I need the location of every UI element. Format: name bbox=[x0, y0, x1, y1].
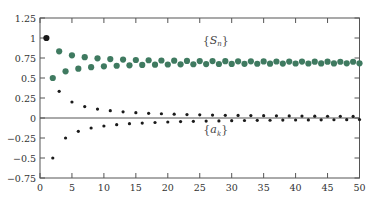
partial-sum-point bbox=[248, 58, 254, 64]
partial-sum-point bbox=[139, 62, 145, 68]
y-tick-label: −0.5 bbox=[13, 153, 36, 164]
partial-sum-point bbox=[171, 58, 177, 64]
plot-frame bbox=[40, 18, 360, 178]
term-point bbox=[288, 114, 291, 117]
x-tick-label: 0 bbox=[37, 182, 43, 193]
term-point bbox=[134, 111, 137, 114]
term-point bbox=[58, 90, 61, 93]
term-point bbox=[160, 112, 163, 115]
partial-sum-point bbox=[69, 52, 75, 58]
partial-sum-point bbox=[312, 59, 318, 65]
partial-sum-point bbox=[318, 60, 324, 66]
term-point bbox=[185, 113, 188, 116]
partial-sum-point bbox=[62, 68, 68, 74]
partial-sum-point bbox=[88, 64, 94, 70]
partial-sum-point bbox=[356, 60, 362, 66]
term-point bbox=[205, 119, 208, 122]
term-point bbox=[77, 130, 80, 133]
x-tick-label: 45 bbox=[322, 182, 334, 193]
term-point bbox=[224, 114, 227, 117]
x-tick-label: 25 bbox=[194, 182, 206, 193]
term-point bbox=[121, 110, 124, 113]
y-tick-label: 1.25 bbox=[15, 13, 36, 24]
term-point bbox=[230, 119, 233, 122]
term-point bbox=[90, 126, 93, 129]
term-point bbox=[109, 109, 112, 112]
partial-sum-point bbox=[190, 61, 196, 67]
y-tick-label: 1 bbox=[30, 33, 36, 44]
x-tick-label: 50 bbox=[353, 182, 365, 193]
partial-sum-point bbox=[324, 59, 330, 65]
y-tick-label: 0.5 bbox=[21, 73, 36, 84]
partial-sum-point bbox=[120, 57, 126, 63]
term-point bbox=[320, 118, 323, 121]
partial-sum-point bbox=[158, 57, 164, 63]
partial-sum-point bbox=[235, 58, 241, 64]
partial-sum-point bbox=[165, 61, 171, 67]
term-point bbox=[192, 120, 195, 123]
term-point bbox=[345, 118, 348, 121]
partial-sum-point bbox=[152, 62, 158, 68]
partial-sum-point bbox=[75, 66, 81, 72]
partial-sum-point bbox=[229, 61, 235, 67]
partial-sum-point bbox=[146, 57, 152, 63]
partial-sum-point bbox=[344, 60, 350, 66]
term-point bbox=[115, 123, 118, 126]
term-point bbox=[179, 120, 182, 123]
partial-sum-point bbox=[267, 61, 273, 67]
term-point bbox=[141, 121, 144, 124]
term-point bbox=[83, 105, 86, 108]
partial-sum-point bbox=[331, 60, 337, 66]
x-tick-label: 20 bbox=[162, 182, 174, 193]
term-point bbox=[339, 115, 342, 118]
term-point bbox=[147, 112, 150, 115]
partial-sum-point bbox=[261, 58, 267, 64]
partial-sum-point bbox=[56, 48, 62, 54]
term-point bbox=[128, 122, 131, 125]
term-point bbox=[313, 115, 316, 118]
partial-sum-point bbox=[203, 61, 209, 67]
x-tick-label: 5 bbox=[69, 182, 75, 193]
partial-sum-point bbox=[293, 60, 299, 66]
partial-sum-point bbox=[184, 58, 190, 64]
partial-sum-point bbox=[337, 59, 343, 65]
term-point bbox=[256, 119, 259, 122]
y-tick-label: 0.25 bbox=[15, 93, 36, 104]
partial-sum-point bbox=[350, 59, 356, 65]
y-tick-label: −0.25 bbox=[7, 133, 36, 144]
term-point bbox=[281, 118, 284, 121]
term-point bbox=[326, 115, 329, 118]
term-point bbox=[173, 113, 176, 116]
term-point bbox=[332, 118, 335, 121]
series-label-terms: {ak} bbox=[203, 123, 228, 138]
partial-sum-point bbox=[286, 59, 292, 65]
term-point bbox=[153, 121, 156, 124]
x-axis: 05101520253035404550 bbox=[37, 18, 366, 193]
partial-sum-point bbox=[299, 59, 305, 65]
partial-sum-point bbox=[273, 58, 279, 64]
series-label-partial-sums: {Sn} bbox=[203, 34, 229, 49]
term-point bbox=[70, 100, 73, 103]
term-point bbox=[358, 118, 361, 121]
term-point bbox=[307, 118, 310, 121]
partial-sum-point bbox=[101, 63, 107, 69]
term-point bbox=[275, 114, 278, 117]
term-point bbox=[262, 114, 265, 117]
partial-sum-point bbox=[114, 63, 120, 69]
term-point bbox=[217, 119, 220, 122]
x-tick-label: 40 bbox=[290, 182, 302, 193]
partial-sum-point bbox=[222, 58, 228, 64]
term-point bbox=[96, 108, 99, 111]
partial-sum-point bbox=[197, 58, 203, 64]
partial-sum-point bbox=[133, 57, 139, 63]
term-point bbox=[243, 119, 246, 122]
partial-sum-point bbox=[241, 61, 247, 67]
partial-sum-point bbox=[82, 54, 88, 60]
first-point bbox=[43, 35, 49, 41]
term-point bbox=[236, 114, 239, 117]
x-tick-label: 35 bbox=[258, 182, 270, 193]
term-point bbox=[352, 115, 355, 118]
partial-sum-point bbox=[107, 56, 113, 62]
term-point bbox=[294, 118, 297, 121]
partial-sum-point bbox=[177, 61, 183, 67]
